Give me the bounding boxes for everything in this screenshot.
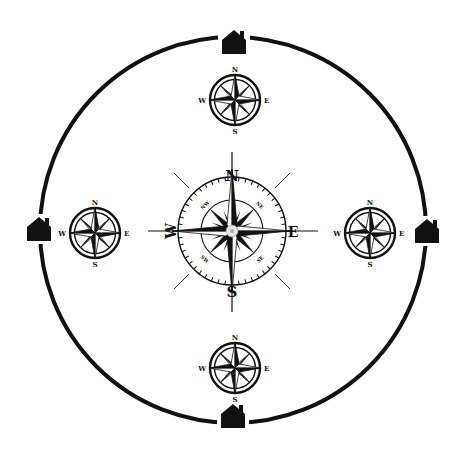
label-e: E (264, 364, 269, 373)
label-w: W (197, 364, 206, 373)
label-w: W (163, 223, 179, 240)
house-right (412, 216, 442, 246)
house-left (24, 214, 54, 244)
label-s: S (232, 395, 237, 404)
label-n: N (232, 333, 239, 342)
label-w: W (197, 96, 206, 105)
small-compass-left: N E S W (57, 198, 129, 269)
label-e: E (399, 229, 404, 238)
label-s: S (227, 283, 238, 301)
house-bottom (217, 402, 249, 432)
compass-rose-icon (209, 74, 261, 126)
label-e: E (124, 229, 129, 238)
label-n: N (367, 198, 374, 207)
label-e: E (288, 224, 299, 240)
small-compass-right: N E S W (332, 198, 404, 269)
house-top (218, 28, 250, 58)
compass-rose-icon (344, 207, 396, 259)
label-e: E (264, 96, 269, 105)
small-compass-top: N E S W (197, 65, 269, 136)
label-n: N (232, 65, 239, 74)
central-compass: N S E W NW NE SW SE (148, 152, 318, 312)
label-w: W (332, 229, 341, 238)
compass-rose-icon (209, 342, 261, 394)
label-n: N (92, 198, 99, 207)
label-s: S (367, 260, 372, 269)
compass-rose-icon (69, 207, 121, 259)
label-s: S (232, 127, 237, 136)
label-w: W (57, 229, 66, 238)
label-n: N (225, 167, 239, 185)
diagram-canvas: N E S W N E S W N E S W N E S W (0, 0, 468, 459)
small-compass-bottom: N E S W (197, 333, 269, 404)
compass-diagram: Large circle with four house markers at … (0, 0, 468, 459)
label-s: S (92, 260, 97, 269)
